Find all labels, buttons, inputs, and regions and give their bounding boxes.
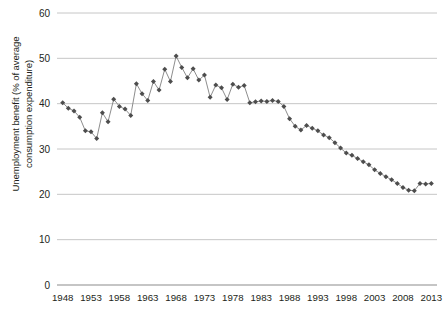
data-point-marker [83,128,88,133]
x-tick-label: 1963 [137,292,159,303]
data-point-marker [106,119,111,124]
data-point-marker [191,66,196,71]
x-tick-label: 1998 [335,292,357,303]
data-point-marker [361,159,366,164]
y-tick-labels: 0102030405060 [39,8,51,291]
data-point-marker [423,181,428,186]
data-point-marker [185,75,190,80]
data-point-marker [179,65,184,70]
x-tick-label: 2008 [392,292,414,303]
data-point-marker [310,126,315,131]
data-point-marker [264,99,269,104]
x-tick-label: 1968 [165,292,187,303]
y-tick-label: 30 [39,144,51,155]
y-tick-label: 60 [39,8,51,19]
data-point-marker [349,153,354,158]
data-point-marker [174,54,179,59]
x-tick-label: 1978 [222,292,244,303]
y-tick-label: 20 [39,189,51,200]
data-point-marker [236,85,241,90]
x-tick-label: 1958 [109,292,131,303]
data-point-marker [134,81,139,86]
x-tick-labels: 1948195319581963196819731978198319881993… [52,292,442,303]
x-tick-label: 1948 [52,292,74,303]
data-point-marker [219,85,224,90]
chart-container: Unemployment benefit (% of average consu… [0,0,444,311]
data-point-marker [230,82,235,87]
line-chart-plot: 0102030405060 19481953195819631968197319… [0,0,444,311]
x-tick-label: 1988 [279,292,301,303]
data-point-marker [225,97,230,102]
y-tick-label: 0 [44,280,50,291]
data-point-marker [389,177,394,182]
data-point-marker [259,98,264,103]
data-point-marker [429,181,434,186]
data-point-marker [100,110,105,115]
y-tick-label: 10 [39,234,51,245]
data-point-marker [242,83,247,88]
x-tick-label: 1953 [80,292,102,303]
x-tick-label: 1973 [194,292,216,303]
x-tick-label: 2003 [364,292,386,303]
y-tick-label: 40 [39,98,51,109]
data-point-marker [208,95,213,100]
data-point-marker [355,156,360,161]
x-tick-label: 1983 [250,292,272,303]
data-point-marker [213,83,218,88]
data-series [60,54,434,194]
data-point-marker [378,171,383,176]
data-point-marker [383,174,388,179]
data-point-marker [406,188,411,193]
data-point-marker [168,79,173,84]
data-point-marker [247,100,252,105]
gridlines [57,13,437,285]
x-tick-label: 1993 [307,292,329,303]
x-tick-label: 2013 [421,292,443,303]
data-point-marker [162,67,167,72]
data-point-marker [157,88,162,93]
data-point-marker [151,79,156,84]
y-tick-label: 50 [39,53,51,64]
data-point-marker [270,98,275,103]
